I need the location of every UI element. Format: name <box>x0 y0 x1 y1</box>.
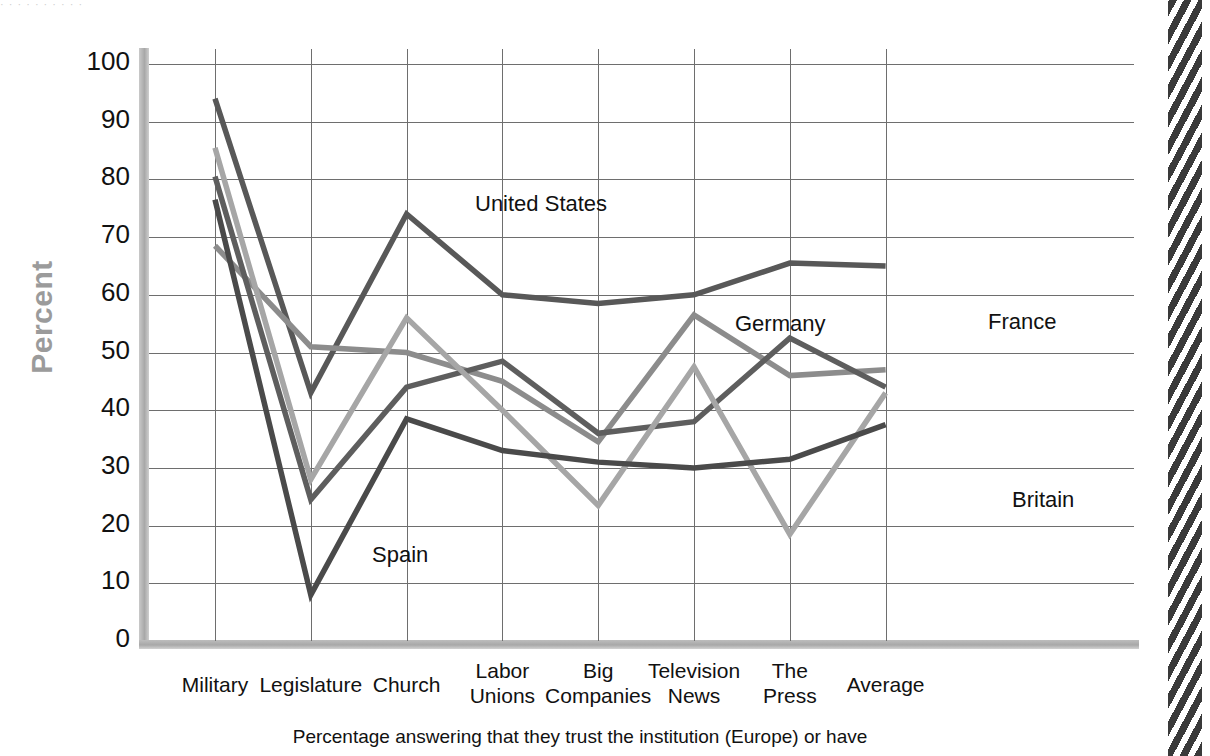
chart-page: · · · · · · · · · · 10090807060504030201… <box>0 0 1210 756</box>
scan-edge-margin <box>1202 0 1210 756</box>
series-label-britain: Britain <box>1012 487 1074 513</box>
series-label-spain: Spain <box>372 542 428 568</box>
series-label-united-states: United States <box>475 191 607 217</box>
chart-plot-area: 1009080706050403020100 Percent MilitaryL… <box>0 0 1170 756</box>
series-label-france: France <box>988 309 1056 335</box>
x-tick-label: Average <box>811 672 961 697</box>
figure-caption: Percentage answering that they trust the… <box>0 726 1160 748</box>
series-line-france <box>215 177 886 500</box>
series-lines <box>0 0 1170 756</box>
scan-edge-stripes <box>1168 0 1202 756</box>
series-label-germany: Germany <box>735 311 825 337</box>
